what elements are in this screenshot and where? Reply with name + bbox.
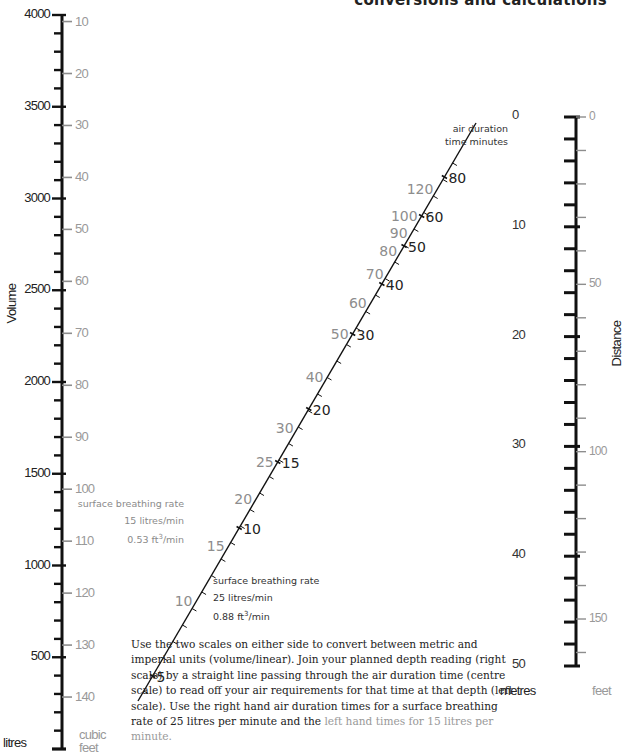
cubic-feet-label: 70 xyxy=(75,325,88,340)
rate-15-line1: surface breathing rate xyxy=(60,495,184,512)
duration-25-label: 40 xyxy=(386,277,404,293)
rate-15-line2: 15 litres/min xyxy=(60,512,184,529)
litres-label: 3500 xyxy=(2,98,50,113)
duration-15-label: 90 xyxy=(390,225,408,241)
metres-label: 30 xyxy=(512,436,525,451)
metres-label: 10 xyxy=(512,217,525,232)
metres-label: 0 xyxy=(512,107,518,122)
duration-minor-tick xyxy=(453,163,457,166)
duration-minor-tick xyxy=(443,180,447,183)
rate-25-line1: surface breathing rate xyxy=(213,572,319,589)
duration-minor-tick xyxy=(337,361,341,364)
air-duration-title-line1: air duration xyxy=(410,122,508,135)
duration-15-label: 10 xyxy=(175,593,193,609)
distance-axis-title: Distance xyxy=(609,314,624,374)
metres-label: 20 xyxy=(512,327,525,342)
duration-15-label: 60 xyxy=(349,295,367,311)
duration-minor-tick xyxy=(260,493,264,496)
duration-minor-tick xyxy=(327,378,331,381)
cubic-feet-label: 140 xyxy=(75,689,94,704)
duration-minor-tick xyxy=(250,510,254,513)
litres-label: 4000 xyxy=(2,6,50,21)
feet-label: 100 xyxy=(589,444,607,458)
cubic-label-line2: feet xyxy=(79,741,106,754)
cubic-feet-label: 130 xyxy=(75,637,94,652)
duration-minor-tick xyxy=(375,295,379,298)
duration-minor-tick xyxy=(298,427,302,430)
duration-minor-tick xyxy=(414,229,418,232)
duration-15-label: 25 xyxy=(256,454,274,470)
duration-minor-tick xyxy=(395,262,399,265)
cubic-feet-label: 100 xyxy=(75,481,94,496)
air-duration-title: air duration time minutes xyxy=(410,122,508,148)
cubic-feet-label: 80 xyxy=(75,377,88,392)
duration-15-label: 30 xyxy=(276,420,294,436)
cubic-feet-label: 120 xyxy=(75,585,94,600)
litres-label: 1000 xyxy=(2,557,50,572)
duration-25-label: 50 xyxy=(408,239,426,255)
litres-label: 2000 xyxy=(2,373,50,388)
duration-15-label: 50 xyxy=(331,326,349,342)
duration-15-label: 40 xyxy=(306,369,324,385)
duration-minor-tick xyxy=(192,609,196,612)
duration-15-label: 100 xyxy=(391,208,418,224)
air-duration-title-line2: time minutes xyxy=(410,135,508,148)
duration-minor-tick xyxy=(366,312,370,315)
rate-25-value: 0.88 ft xyxy=(213,611,244,622)
metres-label: 40 xyxy=(512,546,525,561)
duration-minor-tick xyxy=(433,196,437,199)
feet-unit-label: feet xyxy=(592,683,611,698)
cubic-feet-unit-label: cubic feet xyxy=(79,728,106,754)
feet-label: 150 xyxy=(589,611,607,625)
rate-25-suffix: /min xyxy=(249,611,270,622)
rate-25-line3: 0.88 ft3/min xyxy=(213,606,319,625)
duration-minor-tick xyxy=(221,559,225,562)
rate-15-value: 0.53 ft xyxy=(127,534,158,545)
duration-minor-tick xyxy=(202,592,206,595)
rate-15-legend: surface breathing rate 15 litres/min 0.5… xyxy=(60,495,184,548)
rate-25-line2: 25 litres/min xyxy=(213,589,319,606)
cubic-feet-label: 20 xyxy=(75,66,88,81)
cubic-feet-label: 10 xyxy=(75,14,88,29)
duration-minor-tick xyxy=(308,411,312,414)
feet-label: 0 xyxy=(589,109,595,123)
duration-25-label: 30 xyxy=(357,327,375,343)
duration-15-label: 15 xyxy=(207,538,225,554)
duration-minor-tick xyxy=(269,477,273,480)
feet-label: 50 xyxy=(589,276,601,290)
rate-25-legend: surface breathing rate 25 litres/min 0.8… xyxy=(213,572,319,625)
duration-minor-tick xyxy=(346,345,350,348)
cubic-feet-label: 30 xyxy=(75,117,88,132)
duration-15-label: 70 xyxy=(366,266,384,282)
duration-minor-tick xyxy=(318,394,322,397)
litres-label: 3000 xyxy=(2,190,50,205)
duration-25-label: 10 xyxy=(243,521,261,537)
litres-unit-label: litres xyxy=(3,735,26,750)
instructions-paragraph: Use the two scales on either side to con… xyxy=(131,637,518,745)
duration-25-label: 15 xyxy=(282,455,300,471)
duration-minor-tick xyxy=(231,543,235,546)
cubic-feet-label: 60 xyxy=(75,273,88,288)
duration-25-label: 60 xyxy=(426,209,444,225)
duration-25-label: 80 xyxy=(448,170,466,186)
cubic-feet-label: 90 xyxy=(75,429,88,444)
instructions-main: Use the two scales on either side to con… xyxy=(131,638,513,727)
rate-15-line3: 0.53 ft3/min xyxy=(60,529,184,548)
duration-25-label: 20 xyxy=(313,402,331,418)
duration-15-label: 20 xyxy=(234,491,252,507)
duration-minor-tick xyxy=(182,625,186,628)
litres-label: 2500 xyxy=(2,281,50,296)
duration-minor-tick xyxy=(289,444,293,447)
cubic-feet-label: 50 xyxy=(75,221,88,236)
litres-label: 1500 xyxy=(2,465,50,480)
cubic-feet-label: 40 xyxy=(75,169,88,184)
litres-label: 500 xyxy=(2,648,50,663)
rate-15-suffix: /min xyxy=(163,534,184,545)
duration-15-label: 80 xyxy=(379,243,397,259)
duration-15-label: 120 xyxy=(407,181,434,197)
